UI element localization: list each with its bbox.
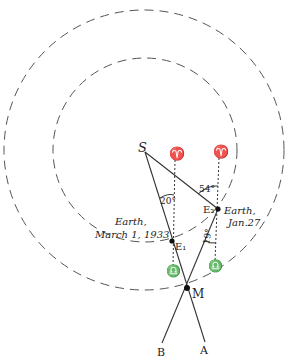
libra-icon-2: ♎ [208,259,223,273]
label-B: B [157,346,165,359]
label-A: A [199,344,209,357]
label-M: M [192,287,204,301]
label-S: S [138,140,147,155]
earth1-label-line1: Earth, [114,216,147,227]
point-E1 [169,238,174,243]
aries-icon-1: ♈ [169,146,185,161]
point-E2 [215,206,220,211]
label-E1: E₁ [175,241,186,252]
orbit-diagram: S E₁ E₂ M A B Earth, March 1, 1933 Earth… [0,0,285,362]
angle-label-54: 54° [199,184,215,194]
label-E2: E₂ [203,204,214,215]
earth1-label-line2: March 1, 1933 [94,229,169,240]
earth2-label-line2: Jan.27 [226,217,261,228]
libra-icon-1: ♎ [166,264,181,278]
point-M [184,285,190,291]
earth2-label-line1: Earth, [223,205,256,216]
aries-icon-2: ♈ [213,144,229,159]
angle-label-20: 20° [160,196,176,206]
